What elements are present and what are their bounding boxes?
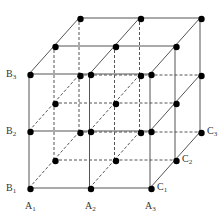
visible-edge	[90, 46, 115, 74]
hidden-edge	[29, 160, 54, 188]
hidden-edge	[115, 75, 140, 103]
hidden-edge	[29, 103, 54, 131]
lattice-point	[198, 16, 204, 22]
lattice-point	[52, 158, 58, 164]
hidden-edge	[90, 160, 115, 188]
label-b3: B3	[6, 68, 17, 81]
visible-edge	[29, 46, 54, 74]
visible-edge	[150, 103, 175, 131]
lattice-point	[138, 73, 144, 79]
hidden-edge	[90, 103, 115, 131]
lattice-point	[198, 73, 204, 79]
label-b2: B2	[6, 125, 17, 138]
lattice-point	[138, 16, 144, 22]
lattice-point	[77, 16, 83, 22]
lattice-point	[88, 72, 94, 78]
visible-edge	[150, 46, 175, 74]
lattice-point	[173, 44, 179, 50]
lattice-point	[77, 73, 83, 79]
lattice-point	[27, 186, 33, 192]
visible-edge	[115, 18, 140, 46]
hidden-edge	[115, 132, 140, 160]
lattice-point	[52, 44, 58, 50]
lattice-point	[77, 130, 83, 136]
lattice-point	[88, 186, 94, 192]
label-c2: C2	[182, 153, 193, 166]
lattice-point	[148, 72, 154, 78]
lattice-point	[88, 129, 94, 135]
lattice-point	[148, 186, 154, 192]
lattice-point	[52, 101, 58, 107]
lattice-point	[113, 44, 119, 50]
hidden-edge	[54, 75, 79, 103]
hidden-edge	[54, 132, 79, 160]
visible-edge	[175, 75, 200, 103]
label-a2: A2	[85, 200, 96, 213]
lattice-point	[173, 158, 179, 164]
lattice-cube-diagram: B3B2B1A1A2A3C1C2C3	[0, 0, 223, 217]
lattice-point	[148, 129, 154, 135]
label-b1: B1	[6, 182, 17, 195]
point-labels: B3B2B1A1A2A3C1C2C3	[6, 68, 218, 213]
label-c3: C3	[207, 125, 218, 138]
label-c1: C1	[157, 181, 168, 194]
lattice-point	[27, 72, 33, 78]
lattice-point	[113, 158, 119, 164]
lattice-point	[198, 130, 204, 136]
visible-edge	[175, 18, 200, 46]
lattice-point	[173, 101, 179, 107]
label-a1: A1	[25, 200, 36, 213]
lattice-point	[113, 101, 119, 107]
lattice-point	[27, 129, 33, 135]
lattice-point	[138, 130, 144, 136]
visible-edge	[54, 18, 79, 46]
label-a3: A3	[145, 200, 156, 213]
